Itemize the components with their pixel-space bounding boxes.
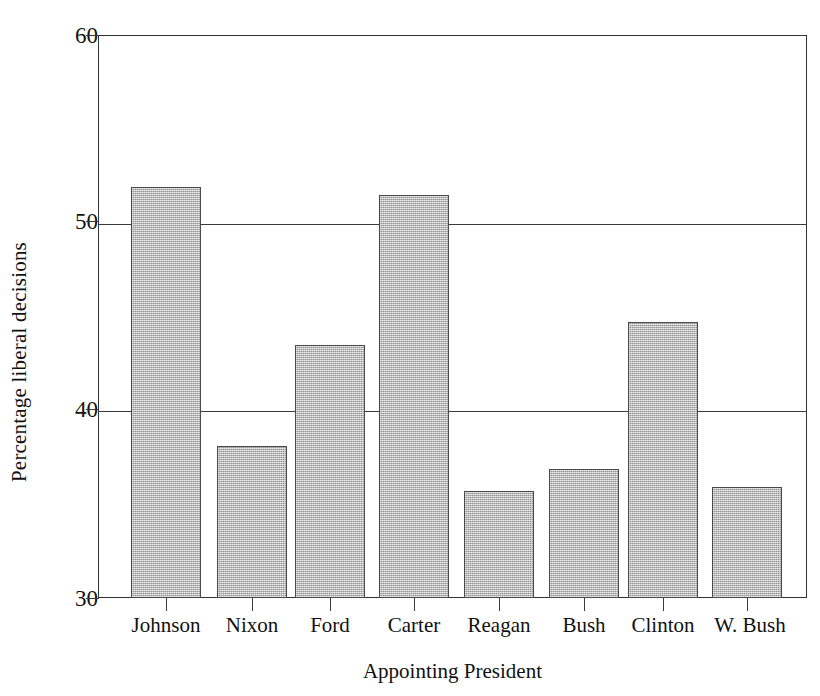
x-tick-label-nixon: Nixon <box>226 615 279 636</box>
x-tick-mark-ford <box>330 598 331 611</box>
bar-ford[interactable] <box>295 345 365 598</box>
x-tick-label-johnson: Johnson <box>132 615 201 636</box>
x-tick-mark-reagan <box>499 598 500 611</box>
bar-clinton[interactable] <box>628 322 698 598</box>
x-tick-label-reagan: Reagan <box>468 615 531 636</box>
bar-nixon[interactable] <box>217 446 287 598</box>
x-tick-mark-w-bush <box>747 598 748 611</box>
x-axis-title: Appointing President <box>98 659 807 684</box>
x-tick-mark-johnson <box>166 598 167 611</box>
y-axis-ticks: 60 50 40 30 <box>0 0 98 696</box>
bar-reagan[interactable] <box>464 491 534 598</box>
bars-layer <box>98 35 807 598</box>
x-axis-ticks: Johnson Nixon Ford Carter Reagan Bush Cl… <box>98 598 807 658</box>
x-tick-mark-carter <box>414 598 415 611</box>
bar-chart: Percentage liberal decisions 60 50 40 30 <box>0 0 820 696</box>
bar-w-bush[interactable] <box>712 487 782 598</box>
bar-johnson[interactable] <box>131 187 201 598</box>
x-tick-label-carter: Carter <box>388 615 440 636</box>
bar-bush[interactable] <box>549 469 619 599</box>
x-tick-mark-nixon <box>252 598 253 611</box>
x-tick-label-ford: Ford <box>310 615 350 636</box>
x-tick-label-bush: Bush <box>562 615 605 636</box>
bar-carter[interactable] <box>379 195 449 599</box>
x-tick-mark-bush <box>584 598 585 611</box>
x-tick-label-w-bush: W. Bush <box>714 615 786 636</box>
x-tick-label-clinton: Clinton <box>631 615 694 636</box>
x-tick-mark-clinton <box>663 598 664 611</box>
